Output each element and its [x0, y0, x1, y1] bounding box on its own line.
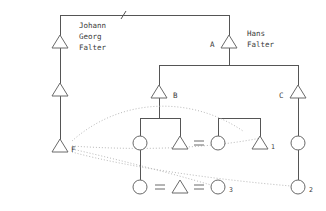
label-3: 3 [229, 186, 233, 194]
pedigree-canvas: Johann Georg Falter A Hans Falter B C F … [0, 0, 326, 211]
person-triangle-b-son[interactable] [172, 136, 188, 149]
label-f: F [71, 145, 76, 154]
label-c: C [279, 91, 284, 100]
person-circle-b-daughter[interactable] [133, 136, 147, 150]
person-triangle-johann[interactable] [52, 35, 68, 48]
label-b: B [173, 91, 178, 100]
person-triangle-1[interactable] [252, 136, 268, 149]
person-circle-c-daughter[interactable] [291, 136, 305, 150]
person-circle-2[interactable] [291, 180, 305, 194]
label-1: 1 [271, 143, 275, 151]
hans-name-line-2: Falter [247, 40, 275, 49]
johann-name-line-2: Georg [79, 32, 102, 41]
person-triangle-b[interactable] [151, 85, 167, 98]
person-circle-3[interactable] [211, 180, 225, 194]
label-a: A [210, 40, 215, 49]
person-triangle-c[interactable] [290, 85, 306, 98]
person-glyph-group [52, 35, 306, 194]
person-triangle-f[interactable] [52, 139, 68, 152]
f-to-female-3-link [72, 149, 211, 185]
union-equals-icon-3 [194, 185, 204, 189]
person-triangle-bottom-male[interactable] [172, 180, 188, 193]
hans-name-line-1: Hans [247, 29, 265, 38]
johann-name-line-3: Falter [79, 43, 107, 52]
pedigree-diagram: Johann Georg Falter A Hans Falter B C F … [0, 0, 326, 211]
johann-name-line-1: Johann [79, 21, 106, 30]
person-circle-bottom-left[interactable] [133, 180, 147, 194]
label-group: Johann Georg Falter A Hans Falter B C F … [71, 21, 313, 194]
person-triangle-left-mid[interactable] [52, 83, 68, 96]
f-to-male-1-link [72, 138, 261, 148]
person-circle-spouse[interactable] [211, 136, 225, 150]
union-equals-icon-2 [155, 185, 165, 189]
person-triangle-hans-a[interactable] [221, 35, 237, 48]
label-2: 2 [309, 186, 313, 194]
union-equals-icon-1 [194, 141, 204, 145]
